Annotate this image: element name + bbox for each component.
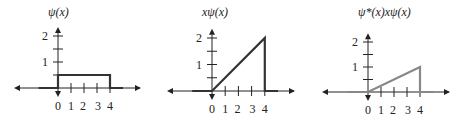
x-axis-left-arrow-icon [14, 85, 20, 91]
x-tick-label: 4 [107, 99, 113, 113]
plot-title: ψ*(x)xψ(x) [358, 5, 411, 19]
data-line [39, 75, 124, 88]
plot-title: xψ(x) [201, 5, 228, 19]
x-axis-left-arrow-icon [167, 88, 173, 94]
x-tick-label: 2 [80, 99, 86, 113]
x-tick-label: 1 [378, 103, 384, 117]
plot-psi-star-x-psi: 1201234ψ*(x)xψ(x) [322, 5, 449, 117]
y-axis-up-arrow-icon [209, 29, 215, 35]
x-axis-left-arrow-icon [322, 89, 328, 95]
chart-area: 1201234ψ(x) 1201234xψ(x) 1201234ψ*(x)xψ(… [0, 0, 471, 124]
x-tick-label: 0 [365, 103, 371, 117]
plot-x-psi: 1201234xψ(x) [167, 5, 294, 116]
x-tick-label: 2 [390, 103, 396, 117]
x-tick-label: 3 [405, 103, 411, 117]
y-tick-label: 2 [42, 29, 48, 43]
y-axis-up-arrow-icon [365, 33, 371, 39]
y-tick-label: 1 [42, 55, 48, 69]
plot-title: ψ(x) [48, 5, 69, 19]
data-line [349, 67, 434, 92]
x-tick-label: 4 [417, 103, 423, 117]
plot-psi: 1201234ψ(x) [14, 5, 140, 113]
data-line [192, 38, 278, 91]
y-axis-down-arrow-icon [209, 94, 215, 100]
y-tick-label: 1 [196, 58, 202, 72]
x-tick-label: 1 [222, 102, 228, 116]
y-tick-label: 2 [352, 35, 358, 49]
x-tick-label: 3 [250, 102, 256, 116]
x-tick-label: 0 [209, 102, 215, 116]
x-tick-label: 1 [68, 99, 74, 113]
y-tick-label: 2 [196, 31, 202, 45]
x-tick-label: 3 [95, 99, 101, 113]
y-axis-down-arrow-icon [55, 91, 61, 97]
x-tick-label: 2 [234, 102, 240, 116]
y-axis-up-arrow-icon [55, 27, 61, 33]
y-tick-label: 1 [352, 60, 358, 74]
y-axis-down-arrow-icon [365, 95, 371, 101]
x-tick-label: 4 [262, 102, 268, 116]
x-tick-label: 0 [55, 99, 61, 113]
